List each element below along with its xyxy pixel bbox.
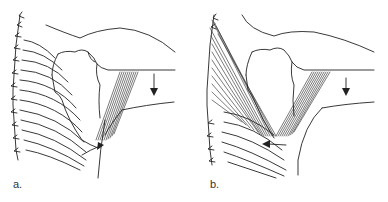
panel-label-b: b. (210, 178, 219, 190)
shoulder-illustration-b (194, 0, 388, 202)
panel-b: b. (194, 0, 388, 202)
down-arrow-icon (150, 88, 158, 96)
shoulder-illustration-a (0, 0, 194, 202)
panel-a: a. (0, 0, 194, 202)
panel-label-a: a. (13, 178, 22, 190)
down-arrow-icon (342, 88, 350, 96)
